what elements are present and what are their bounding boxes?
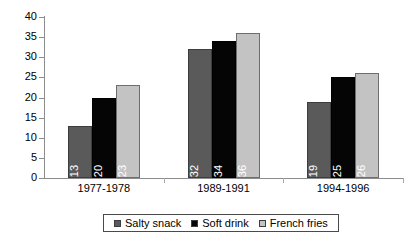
bar-value-label: 26 — [356, 165, 367, 177]
bar: 13 — [68, 126, 92, 178]
y-axis-tick-label: 30 — [1, 51, 37, 62]
y-axis-tick-label: 5 — [1, 152, 37, 163]
legend-item: French fries — [259, 217, 328, 229]
bar-value-label: 36 — [237, 165, 248, 177]
bar-value-label: 32 — [189, 165, 200, 177]
y-axis-tick-label: 40 — [1, 11, 37, 22]
y-axis-tick-label: 10 — [1, 132, 37, 143]
bar-chart: 0510152025303540 132023323436192526 1977… — [0, 0, 418, 241]
legend-label: French fries — [270, 217, 328, 229]
legend-swatch-icon — [114, 220, 121, 227]
bar: 34 — [212, 41, 236, 178]
bar: 32 — [188, 49, 212, 178]
bar-value-label: 13 — [69, 165, 80, 177]
bar-value-label: 25 — [332, 165, 343, 177]
bar: 26 — [355, 73, 379, 178]
y-axis-tick-label: 15 — [1, 112, 37, 123]
legend-item: Soft drink — [191, 217, 248, 229]
bar: 23 — [116, 85, 140, 178]
bar-value-label: 34 — [213, 165, 224, 177]
y-axis-tick-label: 0 — [1, 172, 37, 183]
chart-legend: Salty snackSoft drinkFrench fries — [103, 214, 339, 232]
bar-value-label: 20 — [93, 165, 104, 177]
x-axis-line — [44, 178, 404, 179]
legend-swatch-icon — [191, 220, 198, 227]
bar: 20 — [92, 98, 116, 179]
y-axis-tick — [39, 178, 44, 179]
y-axis-tick-label: 35 — [1, 31, 37, 42]
y-axis-tick-label: 25 — [1, 71, 37, 82]
bar: 36 — [236, 33, 260, 178]
y-axis-tick-label: 20 — [1, 92, 37, 103]
bar: 19 — [307, 102, 331, 178]
bar-value-label: 23 — [117, 165, 128, 177]
legend-item: Salty snack — [114, 217, 181, 229]
legend-label: Soft drink — [202, 217, 248, 229]
x-axis-category-label: 1989-1991 — [164, 182, 284, 195]
plot-area: 132023323436192526 — [44, 17, 403, 178]
legend-swatch-icon — [259, 220, 266, 227]
x-axis-category-label: 1994-1996 — [283, 182, 403, 195]
bar-value-label: 19 — [308, 165, 319, 177]
bar: 25 — [331, 77, 355, 178]
x-axis-tick — [403, 178, 404, 183]
legend-label: Salty snack — [125, 217, 181, 229]
x-axis-category-label: 1977-1978 — [44, 182, 164, 195]
